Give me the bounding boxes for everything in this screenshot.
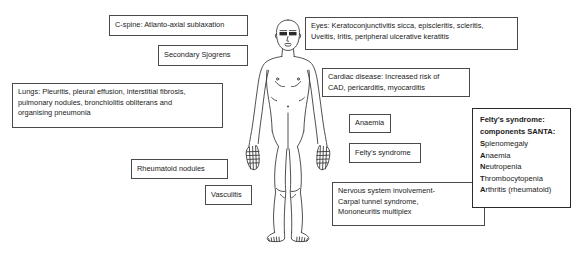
santa-item-arthritis: Arthritis (rheumatoid) — [480, 184, 564, 196]
label-cardiac-disease: Cardiac disease: Increased risk of CAD, … — [322, 68, 470, 97]
santa-item-thrombocytopenia: Thrombocytopenia — [480, 173, 564, 185]
label-rheumatoid-nodules: Rheumatoid nodules — [131, 159, 228, 179]
label-eyes: Eyes: Keratoconjunctivitis sicca, episcl… — [305, 17, 518, 50]
santa-heading: Felty's syndrome: components SANTA: — [480, 114, 564, 137]
label-vasculitis: Vasculitis — [205, 185, 252, 205]
human-body-figure — [236, 18, 340, 244]
santa-rest-neutropenia: eutropenia — [485, 162, 521, 171]
label-nervous-system: Nervous system involvement- Carpal tunne… — [332, 182, 485, 226]
santa-item-neutropenia: Neutropenia — [480, 161, 564, 173]
santa-item-anaemia: Anaemia — [480, 150, 564, 162]
santa-rest-splenomegaly: plenomegaly — [485, 139, 528, 148]
diagram-canvas: C-spine: Atlanto-axial sublaxation Secon… — [0, 0, 576, 254]
santa-rest-anaemia: naemia — [485, 151, 510, 160]
santa-rest-arthritis: rthritis (rheumatoid) — [485, 185, 551, 194]
label-lungs: Lungs: Pleuritis, pleural effusion, inte… — [12, 83, 223, 128]
label-feltys-syndrome: Felty's syndrome — [349, 143, 421, 163]
label-cspine: C-spine: Atlanto-axial sublaxation — [109, 15, 248, 36]
label-anaemia: Anaemia — [349, 114, 391, 133]
santa-item-splenomegaly: Splenomegaly — [480, 138, 564, 150]
label-secondary-sjogrens: Secondary Sjogrens — [158, 45, 248, 66]
santa-rest-thrombocytopenia: hrombocytopenia — [485, 174, 543, 183]
feltys-santa-panel: Felty's syndrome: components SANTA: Sple… — [472, 108, 571, 208]
